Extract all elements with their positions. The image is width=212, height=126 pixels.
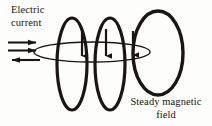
field-loop-2 xyxy=(95,18,125,110)
label-electric-current: Electric current xyxy=(11,4,44,29)
physics-figure-electric-current-magnetic-field: Electric current Steady magnetic field xyxy=(0,0,212,126)
label-steady-magnetic-field: Steady magnetic field xyxy=(122,96,210,121)
field-loop-large xyxy=(133,11,183,95)
